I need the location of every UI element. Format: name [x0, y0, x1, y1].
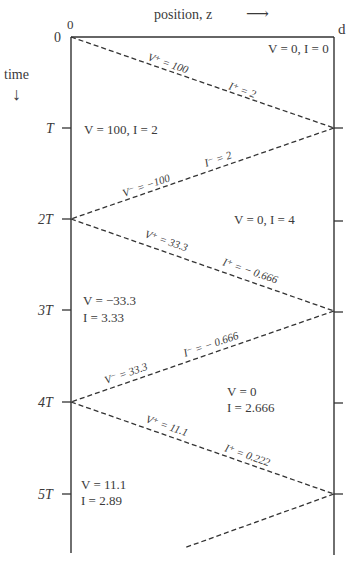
wave-2-reflected [71, 128, 334, 219]
region-3-current: I = 3.33 [83, 310, 124, 325]
region-0-state: V = 0, I = 0 [268, 41, 329, 56]
wave-4-current-label: I⁻ = − 0.666 [181, 329, 241, 359]
z-end-label: d [338, 21, 346, 37]
tick-label-3T: 3T [37, 303, 54, 318]
tick-label-2T: 2T [38, 212, 54, 227]
tick-label-T: T [46, 121, 55, 136]
region-5-current: I = 2.89 [81, 493, 122, 508]
time-ticks-right [334, 128, 343, 494]
wave-2-current-label: I⁻ = 2 [202, 148, 234, 169]
wave-4-voltage-label: V⁻ = 33.3 [103, 360, 150, 386]
tick-label-5T: 5T [38, 487, 54, 502]
region-2-state: V = 0, I = 4 [234, 212, 295, 227]
wave-1-current-label: I⁺ = 2 [226, 79, 258, 100]
wave-3-voltage-label: V⁺ = 33.3 [143, 228, 190, 254]
position-axis-label: position, z [154, 7, 212, 22]
z-start-label: 0 [67, 17, 74, 32]
tick-label-0: 0 [54, 30, 61, 45]
tick-label-4T: 4T [38, 395, 54, 410]
time-arrow-icon: ↓ [12, 84, 21, 104]
bounce-diagram: position, z ⟶ 0 d time ↓ 0 T 2T 3T 4T 5T… [0, 0, 355, 566]
position-arrow-icon: ⟶ [246, 5, 269, 22]
wave-6-reflected [184, 494, 334, 548]
wave-3-current-label: I⁺ = − 0.666 [220, 255, 280, 285]
region-4-voltage: V = 0 [227, 384, 257, 399]
wave-5-voltage-label: V⁺ = 11.1 [144, 413, 189, 439]
wave-1-voltage-label: V⁺ = 100 [146, 51, 190, 76]
region-5-voltage: V = 11.1 [81, 477, 126, 492]
region-4-current: I = 2.666 [227, 400, 275, 415]
region-1-state: V = 100, I = 2 [84, 122, 158, 137]
region-3-voltage: V = −33.3 [83, 293, 136, 308]
wave-2-voltage-label: V⁻ = −100 [121, 171, 172, 199]
time-axis-label: time [4, 67, 29, 82]
time-ticks-left [62, 128, 71, 494]
